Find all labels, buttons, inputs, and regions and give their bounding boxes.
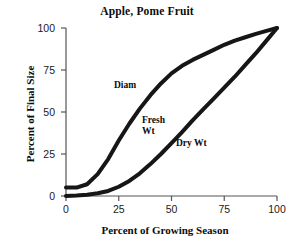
y-axis-label: Percent of Final Size (24, 39, 36, 189)
series-line-diam (66, 28, 277, 188)
series-annotation-fresh-wt-line2: Wt (142, 126, 155, 136)
x-tick-label-25: 25 (104, 203, 134, 215)
chart-figure: Apple, Pome Fruit 100 75 50 25 0 0 25 50… (0, 0, 294, 246)
y-tick-label-0: 0 (25, 190, 55, 202)
y-tick-label-100: 100 (25, 22, 55, 34)
x-tick-label-0: 0 (51, 203, 81, 215)
series-annotation-fresh-wt-line1: Fresh (142, 115, 165, 125)
x-tick-label-75: 75 (209, 203, 239, 215)
x-tick-label-50: 50 (157, 203, 187, 215)
series-annotation-dry-wt: Dry Wt (176, 138, 207, 149)
x-axis-label: Percent of Growing Season (40, 224, 290, 236)
series-annotation-diam: Diam (114, 80, 136, 91)
x-tick-label-100: 100 (262, 203, 292, 215)
series-annotation-fresh-wt: FreshWt (142, 115, 165, 136)
